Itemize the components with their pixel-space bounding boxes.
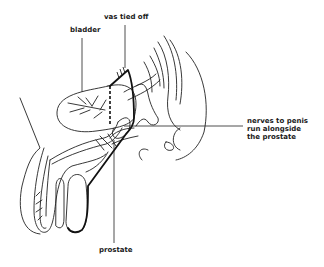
label-nerves: nerves to penis run alongside the prosta… (247, 117, 308, 141)
label-nerves-line-3: the prostate (247, 133, 308, 141)
label-bladder: bladder (70, 26, 100, 34)
label-vas-tied-off: vas tied off (104, 13, 148, 21)
label-prostate: prostate (99, 246, 133, 254)
label-nerves-line-2: run alongside (247, 125, 308, 133)
label-nerves-line-1: nerves to penis (247, 117, 308, 125)
anatomy-diagram: bladder vas tied off nerves to penis run… (0, 0, 324, 267)
vas-deferens (68, 70, 134, 232)
